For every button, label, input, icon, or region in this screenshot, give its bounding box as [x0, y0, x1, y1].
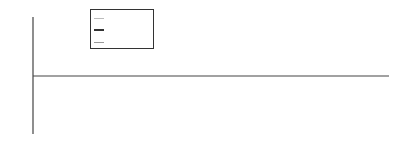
legend-swatch [94, 42, 104, 43]
chart-area [0, 0, 413, 153]
legend-swatch [94, 18, 104, 19]
legend-item-eps-0.001 [94, 36, 150, 48]
legend [90, 9, 154, 49]
legend-swatch [94, 29, 104, 31]
legend-item-eps-0.1 [94, 12, 150, 24]
legend-item-eps-0.01 [94, 24, 150, 36]
